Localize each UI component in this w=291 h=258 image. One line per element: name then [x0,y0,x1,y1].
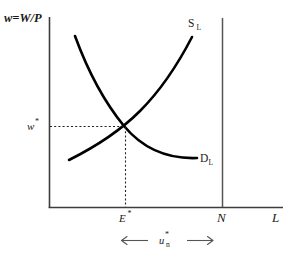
equilibrium-employment-star: * [128,209,132,218]
supply-curve-subscript: L [197,23,202,32]
labor-market-diagram: w=W/P S L D L w * E * N L [0,0,291,258]
labor-demand-curve [75,36,197,158]
natural-unemployment-label: u [159,235,164,246]
natural-unemployment-star: * [165,230,169,239]
demand-curve-subscript: L [209,158,214,167]
equilibrium-wage-label: w [27,120,35,132]
full-employment-label: N [216,210,227,225]
x-axis-label: L [271,210,279,225]
equilibrium-wage-star: * [35,117,39,126]
labor-supply-curve [69,37,192,160]
natural-unemployment-subscript: n [166,240,170,249]
supply-curve-label: S [188,17,194,29]
y-axis-label: w=W/P [4,11,42,25]
demand-curve-label: D [200,152,208,164]
equilibrium-employment-label: E [118,212,126,224]
